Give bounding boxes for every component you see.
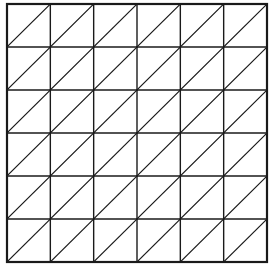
diagonal-line <box>50 47 93 90</box>
diagonal-line <box>180 133 223 176</box>
diagonal-line <box>94 47 137 90</box>
diagonal-line <box>50 133 93 176</box>
diagonal-line <box>224 90 267 133</box>
diagonal-line <box>180 47 223 90</box>
diagonal-line <box>224 4 267 47</box>
diagonal-line <box>94 90 137 133</box>
diagonal-line <box>180 176 223 219</box>
diagonal-line <box>50 4 93 47</box>
diagonal-line <box>7 47 50 90</box>
diagonal-line <box>94 176 137 219</box>
diagonal-line <box>224 176 267 219</box>
diagonal-line <box>94 133 137 176</box>
diagonal-line <box>180 90 223 133</box>
diagonal-line <box>180 4 223 47</box>
diagonal-line <box>50 219 93 262</box>
diagonal-line <box>50 90 93 133</box>
diagonal-line <box>137 4 180 47</box>
diagonal-line <box>7 4 50 47</box>
diagonal-line <box>137 176 180 219</box>
diagonal-line <box>7 90 50 133</box>
diagonal-line <box>224 219 267 262</box>
diagonal-line <box>7 133 50 176</box>
diagonal-line <box>224 133 267 176</box>
diagonal-line <box>137 219 180 262</box>
diagonal-line <box>137 90 180 133</box>
triangulated-grid-diagram <box>0 0 271 273</box>
diagonal-line <box>224 47 267 90</box>
diagonal-line <box>7 219 50 262</box>
diagonal-line <box>137 47 180 90</box>
diagonal-line <box>94 219 137 262</box>
diagonal-line <box>7 176 50 219</box>
diagonal-line <box>137 133 180 176</box>
diagonal-line <box>180 219 223 262</box>
diagonal-line <box>50 176 93 219</box>
diagonal-line <box>94 4 137 47</box>
